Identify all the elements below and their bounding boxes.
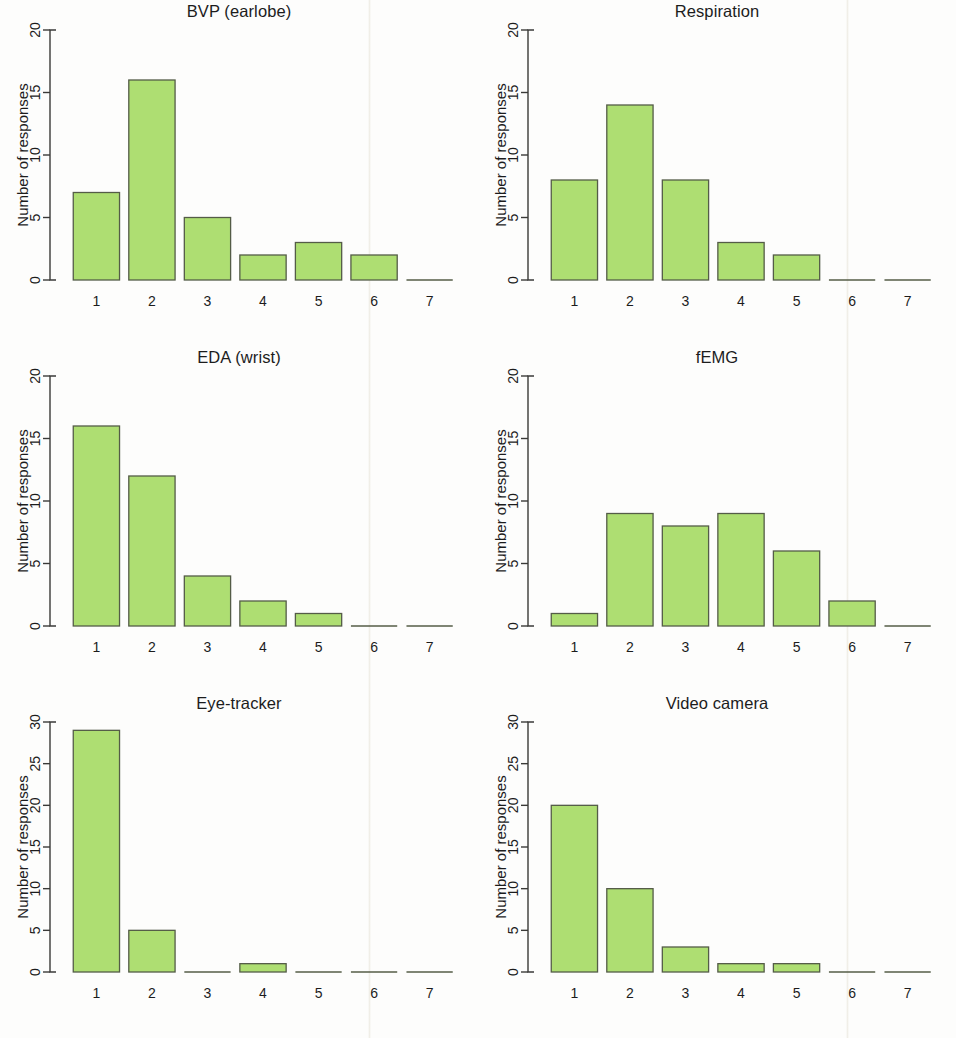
y-tick-label: 0 [505,968,521,976]
y-tick-label: 15 [505,431,521,447]
y-tick-label: 30 [505,714,521,730]
x-tick-label: 6 [848,985,856,1001]
x-tick-label: 1 [570,293,578,309]
y-tick-label: 15 [27,839,43,855]
bar-2 [129,930,175,972]
y-tick-label: 25 [505,756,521,772]
x-tick-label: 3 [204,293,212,309]
plot-area-video-camera: 0510152025301234567 [478,692,956,1038]
bar-2 [607,889,653,972]
y-tick-label: 0 [27,622,43,630]
y-tick-label: 5 [27,559,43,567]
x-tick-label: 2 [148,985,156,1001]
y-tick-label: 5 [505,559,521,567]
y-tick-label: 5 [505,926,521,934]
y-tick-label: 5 [27,213,43,221]
bar-6 [829,601,875,626]
y-tick-label: 10 [505,147,521,163]
bar-2 [129,476,175,626]
bar-1 [73,193,119,281]
x-tick-label: 5 [793,293,801,309]
x-tick-label: 7 [426,985,434,1001]
bar-2 [607,105,653,280]
bar-4 [240,255,286,280]
bars: 1234567 [551,105,930,309]
bars: 1234567 [73,426,452,655]
plot-area-eda-wrist: 051015201234567 [0,346,478,692]
y-tick-label: 15 [27,431,43,447]
y-tick-label: 5 [505,213,521,221]
y-tick-label: 20 [505,368,521,384]
bar-3 [662,180,708,280]
chart-panel-video-camera: Video cameraNumber of responses051015202… [478,692,956,1038]
chart-panel-eda-wrist: EDA (wrist)Number of responses0510152012… [0,346,478,692]
x-tick-label: 1 [92,639,100,655]
x-tick-label: 4 [737,985,745,1001]
y-tick-label: 10 [27,147,43,163]
x-tick-label: 2 [626,293,634,309]
plot-area-respiration: 051015201234567 [478,0,956,346]
x-tick-label: 5 [315,985,323,1001]
bar-1 [73,730,119,972]
chart-panel-bvp-earlobe: BVP (earlobe)Number of responses05101520… [0,0,478,346]
bar-5 [773,551,819,626]
x-tick-label: 7 [426,293,434,309]
x-tick-label: 6 [848,293,856,309]
x-tick-label: 4 [737,293,745,309]
bars: 1234567 [73,80,452,309]
bar-4 [718,514,764,627]
y-tick-label: 30 [27,714,43,730]
bar-4 [240,601,286,626]
bar-1 [551,180,597,280]
bar-5 [773,964,819,972]
x-tick-label: 2 [148,293,156,309]
figure-panel-grid: BVP (earlobe)Number of responses05101520… [0,0,956,1038]
y-tick-label: 0 [27,968,43,976]
x-tick-label: 5 [793,985,801,1001]
y-tick-label: 10 [505,493,521,509]
y-tick-label: 20 [505,22,521,38]
y-tick-label: 20 [27,797,43,813]
x-tick-label: 6 [370,985,378,1001]
y-axis: 05101520 [27,368,56,630]
x-tick-label: 7 [426,639,434,655]
x-tick-label: 4 [259,293,267,309]
y-tick-label: 10 [27,493,43,509]
x-tick-label: 5 [315,293,323,309]
x-tick-label: 3 [682,639,690,655]
y-tick-label: 10 [27,881,43,897]
plot-area-femg: 051015201234567 [478,346,956,692]
bar-4 [240,964,286,972]
x-tick-label: 5 [315,639,323,655]
bar-3 [662,947,708,972]
x-tick-label: 7 [904,639,912,655]
chart-panel-femg: fEMGNumber of responses051015201234567 [478,346,956,692]
chart-panel-eye-tracker: Eye-trackerNumber of responses0510152025… [0,692,478,1038]
bar-1 [73,426,119,626]
y-tick-label: 20 [27,22,43,38]
x-tick-label: 1 [92,985,100,1001]
x-tick-label: 2 [148,639,156,655]
x-tick-label: 1 [570,639,578,655]
x-tick-label: 4 [259,985,267,1001]
x-tick-label: 4 [259,639,267,655]
bar-5 [773,255,819,280]
y-axis: 051015202530 [27,714,56,976]
bars: 1234567 [551,805,930,1001]
x-tick-label: 7 [904,293,912,309]
bar-5 [295,614,341,627]
y-axis: 05101520 [505,368,534,630]
bars: 1234567 [551,514,930,656]
y-tick-label: 15 [505,85,521,101]
plot-area-eye-tracker: 0510152025301234567 [0,692,478,1038]
x-tick-label: 3 [682,293,690,309]
y-tick-label: 15 [505,839,521,855]
x-tick-label: 3 [204,639,212,655]
y-tick-label: 15 [27,85,43,101]
y-axis: 051015202530 [505,714,534,976]
bar-1 [551,805,597,972]
x-tick-label: 2 [626,639,634,655]
x-tick-label: 6 [370,639,378,655]
x-tick-label: 6 [848,639,856,655]
bar-1 [551,614,597,627]
